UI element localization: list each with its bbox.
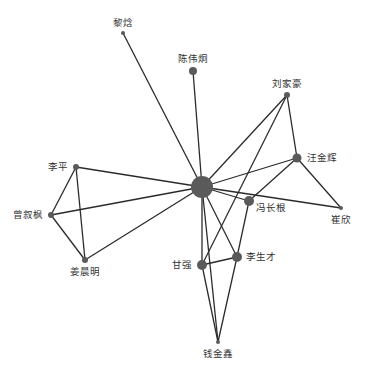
node-label-jiangchenming: 姜晨明: [70, 266, 100, 277]
node-fengchanggen: [244, 196, 254, 206]
node-label-liujiahao: 刘家豪: [272, 78, 302, 89]
node-label-chenweijiong: 陈伟炯: [178, 53, 208, 64]
labels-layer: 黎焓陈伟炯刘家豪汪金辉李平曾叙枫冯长根崔欣姜晨明甘强李生才钱金鑫: [13, 17, 351, 359]
node-wangjinhui: [293, 154, 302, 163]
node-label-ganqiang: 甘强: [172, 259, 192, 270]
edge-wangjinhui-fengchanggen: [249, 158, 297, 201]
edge-wangjinhui-cuixin: [297, 158, 341, 208]
node-ganqiang: [197, 260, 207, 270]
edge-hub-chenweijiong: [193, 71, 202, 187]
network-graph: 黎焓陈伟炯刘家豪汪金辉李平曾叙枫冯长根崔欣姜晨明甘强李生才钱金鑫: [0, 0, 382, 380]
node-lishengcai: [232, 252, 242, 262]
node-label-zengxufeng: 曾叙枫: [13, 209, 43, 220]
node-chenweijiong: [189, 67, 197, 75]
edge-ganqiang-lishengcai: [202, 257, 237, 265]
edge-hub-lishengcai: [202, 187, 237, 257]
node-label-wangjinhui: 汪金辉: [307, 152, 337, 163]
node-cuixin: [339, 206, 343, 210]
edge-liping-zengxufeng: [51, 167, 76, 215]
node-zengxufeng: [48, 212, 54, 218]
edge-fengchanggen-lishengcai: [237, 201, 249, 257]
node-lihan: [121, 31, 125, 35]
edge-ganqiang-qianjinxin: [202, 265, 218, 342]
node-jiangchenming: [82, 257, 88, 263]
edge-zengxufeng-jiangchenming: [51, 215, 85, 260]
node-label-lishengcai: 李生才: [246, 251, 276, 262]
edge-hub-liping: [76, 167, 202, 187]
edge-liping-jiangchenming: [76, 167, 85, 260]
node-label-cuixin: 崔欣: [331, 214, 351, 225]
node-qianjinxin: [216, 340, 220, 344]
node-hub: [191, 176, 213, 198]
node-label-fengchanggen: 冯长根: [256, 202, 286, 213]
edge-lishengcai-qianjinxin: [218, 257, 237, 342]
node-liujiahao: [284, 92, 290, 98]
node-label-liping: 李平: [48, 161, 68, 172]
node-label-qianjinxin: 钱金鑫: [203, 348, 233, 359]
edge-liujiahao-wangjinhui: [287, 95, 297, 158]
node-label-lihan: 黎焓: [113, 17, 133, 28]
edge-hub-liujiahao: [202, 95, 287, 187]
edge-liujiahao-ganqiang: [202, 95, 287, 265]
node-liping: [73, 164, 79, 170]
